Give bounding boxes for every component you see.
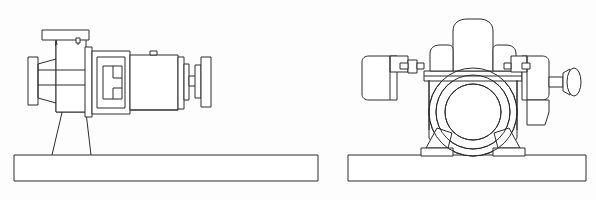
motor-end-plate bbox=[178, 57, 184, 109]
bearing-housing-right-lower bbox=[527, 100, 549, 125]
suction-flange-left bbox=[28, 57, 38, 105]
motor-body bbox=[130, 55, 178, 110]
discharge-nozzle-top bbox=[453, 19, 493, 71]
shaft-extension bbox=[549, 77, 563, 87]
side-elevation-view bbox=[14, 30, 318, 181]
terminal-box bbox=[150, 51, 157, 55]
shaft-collar-left bbox=[417, 63, 424, 69]
coupling-disc bbox=[567, 68, 581, 96]
nozzle-shoulder-left bbox=[430, 45, 453, 71]
shaft-sleeve-left bbox=[408, 60, 417, 73]
shaft-collar-right bbox=[504, 63, 511, 69]
coupling-end-flange bbox=[201, 57, 211, 107]
discharge-boss bbox=[76, 38, 80, 43]
coupling-hub-inner bbox=[184, 64, 189, 100]
base-plate-right bbox=[348, 155, 586, 181]
mounting-foot-right bbox=[493, 148, 525, 156]
suction-neck-upper bbox=[38, 59, 56, 64]
suction-neck-lower bbox=[38, 98, 56, 103]
coupling-hub-mid bbox=[195, 65, 201, 98]
end-elevation-view bbox=[348, 19, 586, 181]
volute-casing-outline bbox=[56, 33, 86, 112]
mounting-foot-left bbox=[421, 148, 453, 156]
drawing-sheet bbox=[0, 0, 596, 200]
shaft-link-right bbox=[522, 63, 530, 69]
casing-cover-plate bbox=[85, 47, 92, 117]
discharge-flange-top bbox=[42, 30, 89, 40]
base-plate-left bbox=[14, 155, 318, 181]
pump-assembly-drawing bbox=[0, 0, 596, 200]
shaft-link-left bbox=[400, 63, 408, 69]
